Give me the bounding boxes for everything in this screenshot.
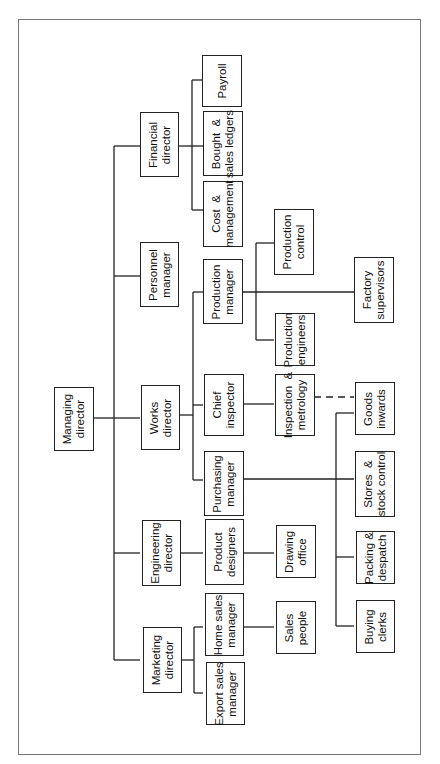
- box-engineering-director: Engineering director: [142, 520, 181, 586]
- box-factory-supervisors: Factory supervisors: [354, 257, 394, 323]
- box-label: Purchasing manager: [211, 455, 237, 513]
- box-works-director: Works director: [141, 385, 180, 450]
- box-label: Personnel manager: [147, 249, 173, 301]
- box-sales-people: Sales people: [276, 601, 316, 654]
- box-buying-clerks: Buying clerks: [356, 600, 395, 653]
- box-label: Marketing director: [150, 635, 176, 686]
- box-label: Payroll: [216, 63, 229, 98]
- box-label: Home sales manager: [212, 594, 238, 655]
- box-packing-despatch: Packing & despatch: [356, 531, 395, 584]
- box-label: Packing & despatch: [363, 532, 389, 584]
- box-label: Cost & management: [210, 180, 236, 247]
- box-stores-stock-control: Stores & stock control: [355, 451, 395, 517]
- box-home-sales-manager: Home sales manager: [205, 593, 244, 656]
- box-marketing-director: Marketing director: [143, 627, 182, 693]
- box-label: Drawing office: [283, 530, 309, 572]
- box-label: Managing director: [61, 394, 87, 445]
- box-label: Production manager: [210, 264, 236, 319]
- box-label: Works director: [148, 398, 174, 436]
- box-label: Production engineers: [282, 312, 308, 367]
- box-production-engineers: Production engineers: [275, 313, 315, 366]
- box-label: Production control: [281, 215, 307, 270]
- box-label: Bought & sales ledgers: [210, 110, 236, 178]
- box-production-control: Production control: [274, 209, 314, 275]
- box-cost-management: Cost & management: [203, 181, 243, 247]
- box-bought-sales-ledgers: Bought & sales ledgers: [203, 111, 243, 176]
- box-payroll: Payroll: [202, 55, 242, 107]
- box-drawing-office: Drawing office: [276, 525, 316, 578]
- box-label: Product designers: [212, 527, 238, 577]
- box-chief-inspector: Chief inspector: [204, 374, 244, 436]
- box-production-manager: Production manager: [203, 259, 243, 324]
- box-label: Export sales manager: [213, 662, 239, 725]
- box-label: Factory supervisors: [361, 261, 387, 320]
- box-purchasing-manager: Purchasing manager: [204, 451, 244, 516]
- box-managing-director: Managing director: [54, 387, 94, 451]
- box-goods-inwards: Goods inwards: [355, 382, 395, 435]
- box-personnel-manager: Personnel manager: [140, 242, 179, 307]
- box-product-designers: Product designers: [205, 519, 244, 585]
- box-label: Inspection & metrology: [282, 372, 308, 438]
- box-financial-director: Financial director: [140, 112, 179, 177]
- box-export-sales-manager: Export sales manager: [206, 662, 245, 725]
- box-label: Goods inwards: [362, 389, 388, 429]
- box-label: Buying clerks: [363, 609, 389, 644]
- box-label: Financial director: [147, 121, 173, 167]
- box-inspection-metrology: Inspection & metrology: [275, 374, 315, 436]
- box-label: Engineering director: [149, 522, 175, 583]
- box-label: Sales people: [283, 610, 309, 645]
- box-label: Stores & stock control: [362, 452, 388, 517]
- box-label: Chief inspector: [211, 382, 237, 429]
